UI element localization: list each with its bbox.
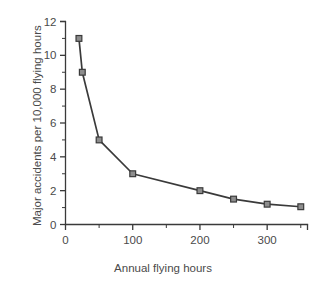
y-tick-label: 10	[44, 49, 57, 61]
x-tick-label: 200	[190, 234, 209, 246]
y-axis-tick-labels: 024681012	[44, 16, 57, 231]
data-point-marker	[76, 36, 82, 42]
data-point-marker	[264, 201, 270, 207]
data-series-group	[76, 36, 304, 210]
y-axis-title: Major accidents per 10,000 flying hours	[31, 26, 43, 226]
data-point-marker	[298, 204, 304, 210]
x-axis-ticks	[66, 225, 308, 231]
x-axis-title: Annual flying hours	[0, 262, 326, 274]
chart-figure: 024681012 0100200300 Major accidents per…	[0, 0, 326, 286]
series-line	[79, 38, 301, 206]
y-axis-ticks	[60, 22, 66, 225]
series-markers	[76, 36, 304, 210]
x-tick-label: 0	[62, 234, 68, 246]
data-point-marker	[231, 196, 237, 202]
line-chart-plot: 024681012 0100200300	[0, 0, 326, 286]
data-point-marker	[96, 137, 102, 143]
axes-group	[66, 22, 308, 225]
x-axis-tick-labels: 0100200300	[62, 234, 276, 246]
y-tick-label: 4	[50, 151, 57, 163]
y-tick-label: 12	[44, 16, 57, 28]
x-tick-label: 100	[123, 234, 142, 246]
x-tick-label: 300	[258, 234, 277, 246]
y-tick-label: 2	[50, 185, 56, 197]
data-point-marker	[197, 188, 203, 194]
y-tick-label: 0	[50, 219, 56, 231]
y-tick-label: 8	[50, 83, 56, 95]
y-tick-label: 6	[50, 117, 56, 129]
data-point-marker	[79, 69, 85, 75]
data-point-marker	[130, 171, 136, 177]
